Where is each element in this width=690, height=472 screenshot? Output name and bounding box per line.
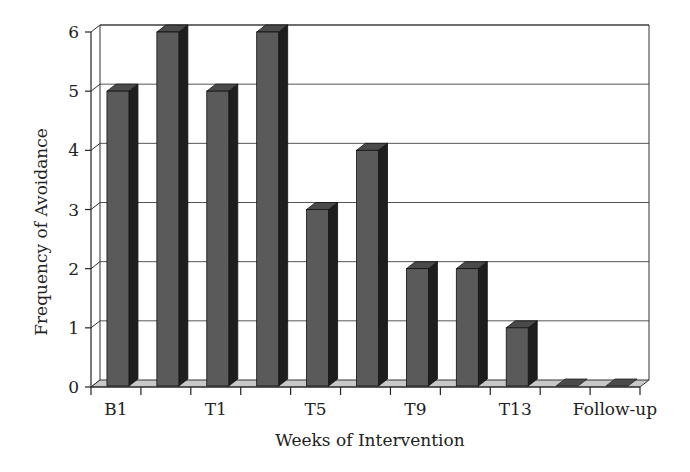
x-tick-label: Follow-up (573, 399, 657, 419)
y-tick-label: 2 (68, 259, 79, 279)
y-tick-label: 0 (68, 377, 79, 397)
y-axis-title: Frequency of Avoidance (31, 128, 51, 336)
bar (307, 203, 338, 387)
bar (506, 321, 537, 386)
bar (107, 84, 138, 386)
bar (456, 262, 487, 386)
bar (157, 25, 188, 386)
bar (357, 143, 388, 386)
y-tick-label: 5 (68, 81, 79, 101)
bars (107, 25, 637, 386)
bar (257, 25, 288, 386)
bar-chart: 0123456 B1T1T5T9T13Follow-up Weeks of In… (0, 0, 690, 472)
x-axis-title: Weeks of Intervention (275, 430, 464, 450)
x-tick-label: T9 (404, 399, 426, 419)
x-tick-label: B1 (104, 399, 127, 419)
y-axis-ticks: 0123456 (68, 22, 91, 397)
y-tick-label: 4 (68, 140, 79, 160)
x-tick-label: T13 (499, 399, 532, 419)
x-tick-label: T1 (205, 399, 227, 419)
y-tick-label: 1 (68, 318, 79, 338)
x-tick-label: T5 (305, 399, 327, 419)
bar (207, 84, 238, 386)
bar (406, 262, 437, 386)
x-axis-ticks: B1T1T5T9T13Follow-up (91, 387, 657, 419)
y-tick-label: 3 (68, 200, 79, 220)
y-tick-label: 6 (68, 22, 79, 42)
